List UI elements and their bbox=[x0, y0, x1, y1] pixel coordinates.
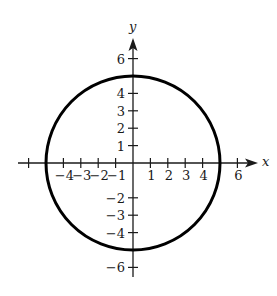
x-tick-label: −3 bbox=[72, 168, 91, 183]
y-tick-label: −4 bbox=[106, 226, 125, 241]
x-tick-label: 6 bbox=[234, 168, 242, 183]
x-tick-label: 3 bbox=[182, 168, 190, 183]
y-tick-label: −2 bbox=[106, 191, 125, 206]
y-tick-label: 6 bbox=[117, 52, 125, 67]
x-tick-label: −4 bbox=[55, 168, 74, 183]
x-tick-label: −2 bbox=[90, 168, 109, 183]
y-tick-label: 1 bbox=[117, 139, 125, 154]
y-axis-label: y bbox=[128, 19, 137, 34]
x-axis-label: x bbox=[262, 154, 270, 169]
y-tick-label: 4 bbox=[117, 86, 125, 101]
y-tick-label: −3 bbox=[106, 208, 125, 223]
x-tick-label: 2 bbox=[165, 168, 173, 183]
y-tick-label: −6 bbox=[106, 260, 125, 275]
x-tick-label: 1 bbox=[147, 168, 155, 183]
x-tick-label: −1 bbox=[107, 168, 126, 183]
y-tick-label: 2 bbox=[117, 121, 125, 136]
x-tick-label: 4 bbox=[199, 168, 207, 183]
coordinate-plane: x y −4−3−2−11234664321−2−3−4−6 bbox=[0, 0, 277, 296]
y-tick-label: 3 bbox=[117, 104, 125, 119]
